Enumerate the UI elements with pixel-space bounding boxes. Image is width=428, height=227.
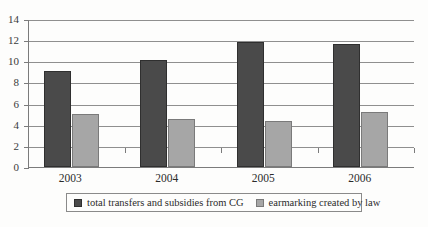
gridline-14 <box>29 20 414 21</box>
gridline-12 <box>29 41 414 42</box>
x-tick-mark <box>125 148 126 153</box>
bar-2003-series-2 <box>72 114 99 167</box>
gridline-0 <box>29 168 414 169</box>
y-axis-tick-label: 0 <box>0 162 19 173</box>
y-tick-mark-4 <box>24 126 29 127</box>
plot-area <box>28 20 414 168</box>
x-axis-label-2005: 2005 <box>233 172 293 184</box>
bar-2004-series-1 <box>140 60 167 167</box>
y-axis-tick-label: 2 <box>0 141 19 152</box>
y-tick-mark-6 <box>24 105 29 106</box>
y-axis-tick-label: 14 <box>0 14 19 25</box>
y-axis-tick-label: 12 <box>0 35 19 46</box>
legend-entry-1: total transfers and subsidies from CG <box>74 197 244 208</box>
y-tick-mark-14 <box>24 20 29 21</box>
bar-2005-series-1 <box>237 42 264 167</box>
x-axis-label-2004: 2004 <box>137 172 197 184</box>
x-tick-mark <box>414 148 415 153</box>
y-axis-tick-label: 4 <box>0 120 19 131</box>
y-tick-mark-2 <box>24 147 29 148</box>
bar-2005-series-2 <box>265 121 292 168</box>
bar-2004-series-2 <box>168 119 195 167</box>
legend-label: earmarking created by law <box>269 197 381 208</box>
bar-2006-series-2 <box>361 112 388 167</box>
bar-chart-figure: 02468101214 2003200420052006 total trans… <box>0 0 428 227</box>
legend-entry-2: earmarking created by law <box>256 197 381 208</box>
chart-legend: total transfers and subsidies from CGear… <box>66 193 362 212</box>
legend-label: total transfers and subsidies from CG <box>87 197 244 208</box>
y-tick-mark-0 <box>24 168 29 169</box>
y-tick-mark-12 <box>24 41 29 42</box>
y-axis-tick-label: 6 <box>0 99 19 110</box>
y-tick-mark-8 <box>24 83 29 84</box>
y-axis-tick-label: 8 <box>0 77 19 88</box>
y-tick-mark-10 <box>24 62 29 63</box>
bar-2003-series-1 <box>44 71 71 167</box>
y-axis-tick-label: 10 <box>0 56 19 67</box>
legend-swatch-icon-2 <box>256 199 264 207</box>
legend-swatch-icon-1 <box>74 199 82 207</box>
x-tick-mark <box>221 148 222 153</box>
bar-2006-series-1 <box>333 44 360 167</box>
x-tick-mark <box>318 148 319 153</box>
x-axis-label-2003: 2003 <box>40 172 100 184</box>
x-axis-label-2006: 2006 <box>330 172 390 184</box>
